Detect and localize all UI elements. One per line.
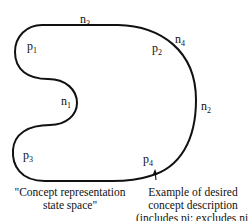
caption-desired-concept-line3: (includes pi; excludes ni): [136, 212, 248, 221]
caption-desired-concept-line1: Example of desired: [136, 186, 248, 199]
label-p3: p3: [23, 149, 33, 166]
label-p4: p4: [143, 153, 153, 170]
label-p1: p1: [27, 40, 37, 57]
label-n4: n4: [175, 33, 185, 50]
caption-state-space: "Concept representation state space": [14, 186, 126, 212]
caption-desired-concept-line2: concept description: [136, 199, 248, 212]
caption-state-space-line1: "Concept representation: [14, 186, 126, 199]
caption-desired-concept: Example of desired concept description (…: [136, 186, 248, 221]
label-p2: p2: [152, 42, 162, 59]
caption-state-space-line2: state space": [14, 199, 126, 212]
label-n3: n3: [80, 13, 90, 30]
label-n1: n1: [61, 95, 71, 112]
arrow-icon: [153, 169, 158, 180]
concept-boundary-curve: [13, 25, 196, 181]
label-n2: n2: [201, 100, 211, 117]
